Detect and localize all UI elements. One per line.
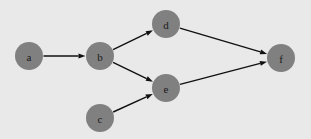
graph-node-e[interactable]: e: [152, 74, 180, 102]
arrowhead-icon-c-e: [145, 94, 152, 99]
node-circle-d[interactable]: [152, 10, 180, 38]
edges-layer: [44, 28, 268, 112]
graph-edge-a-b: [44, 54, 86, 59]
node-circle-a[interactable]: [15, 42, 43, 70]
graph-edge-d-f: [180, 28, 267, 54]
graph-diagram-canvas: abcdef: [0, 0, 311, 139]
graph-edge-c-e: [113, 94, 153, 112]
graph-edge-b-e: [113, 62, 153, 81]
graph-node-b[interactable]: b: [86, 42, 114, 70]
graph-node-f[interactable]: f: [267, 44, 295, 72]
graph-node-d[interactable]: d: [152, 10, 180, 38]
arrowhead-icon-b-d: [146, 30, 153, 35]
graph-node-a[interactable]: a: [15, 42, 43, 70]
graph-svg: abcdef: [0, 0, 311, 139]
node-circle-b[interactable]: [86, 42, 114, 70]
arrowhead-icon-d-f: [260, 50, 267, 55]
arrowhead-icon-b-e: [146, 76, 153, 81]
edge-line-c-e: [113, 97, 146, 112]
arrowhead-icon-a-b: [79, 54, 86, 59]
node-circle-e[interactable]: [152, 74, 180, 102]
edge-line-b-d: [113, 33, 147, 49]
graph-edge-b-d: [113, 30, 153, 49]
arrowhead-icon-e-f: [260, 61, 267, 66]
edge-line-b-e: [113, 62, 147, 78]
edge-line-d-f: [180, 28, 260, 52]
node-circle-f[interactable]: [267, 44, 295, 72]
graph-node-c[interactable]: c: [86, 104, 114, 132]
nodes-layer: abcdef: [15, 10, 295, 132]
node-circle-c[interactable]: [86, 104, 114, 132]
edge-line-e-f: [180, 63, 260, 84]
graph-edge-e-f: [180, 61, 267, 84]
